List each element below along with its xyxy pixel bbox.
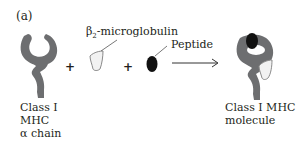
alpha-chain-shape: [21, 34, 58, 98]
molecule-label-line1: Class I MHC: [225, 102, 295, 114]
alpha-chain-label-line1: Class I: [20, 102, 58, 114]
plus-operator-2: +: [123, 60, 133, 74]
peptide-label: Peptide: [171, 39, 213, 51]
diagram-canvas: (a) + + β2-microglobulin Peptide Class I…: [0, 0, 305, 161]
alpha-chain-label-line2: MHC: [20, 115, 49, 127]
panel-label: (a): [16, 10, 33, 22]
plus-operator-1: +: [65, 60, 75, 74]
molecule-peptide-shape: [246, 33, 258, 49]
peptide-shape: [147, 56, 158, 72]
b2m-shape: [90, 51, 103, 71]
molecule-label-line2: molecule: [225, 115, 275, 127]
alpha-chain-label-line3: α chain: [20, 128, 61, 140]
b2m-label: β2-microglobulin: [86, 26, 178, 42]
peptide-leader-line: [155, 46, 167, 56]
